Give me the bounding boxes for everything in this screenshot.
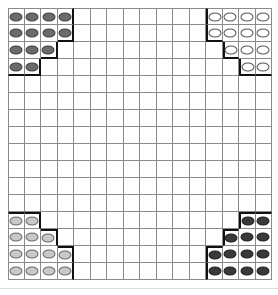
dark-piece[interactable] [10,12,23,21]
light-piece[interactable] [26,250,39,259]
board-cell[interactable] [140,263,157,280]
board-cell[interactable] [223,42,240,59]
board-cell[interactable] [173,246,190,263]
white-piece[interactable] [224,12,237,21]
board-cell[interactable] [223,93,240,110]
dark-piece[interactable] [10,46,23,55]
board-cell[interactable] [8,42,25,59]
board-cell[interactable] [91,212,108,229]
board-cell[interactable] [157,195,174,212]
board-cell[interactable] [41,263,58,280]
board-cell[interactable] [107,195,124,212]
board-cell[interactable] [190,263,207,280]
board-cell[interactable] [74,212,91,229]
board-cell[interactable] [223,25,240,42]
board-cell[interactable] [25,110,42,127]
board-cell[interactable] [8,161,25,178]
board-cell[interactable] [124,195,141,212]
board-cell[interactable] [58,25,75,42]
white-piece[interactable] [257,62,270,71]
dark-piece[interactable] [58,12,71,21]
board-cell[interactable] [256,263,273,280]
board-cell[interactable] [223,178,240,195]
board-cell[interactable] [223,161,240,178]
board-cell[interactable] [190,127,207,144]
board-cell[interactable] [58,93,75,110]
board-cell[interactable] [190,42,207,59]
black-piece[interactable] [240,233,253,242]
board-cell[interactable] [107,110,124,127]
board-cell[interactable] [256,144,273,161]
board-cell[interactable] [256,178,273,195]
board-cell[interactable] [41,127,58,144]
board-cell[interactable] [206,76,223,93]
board-cell[interactable] [41,25,58,42]
board-cell[interactable] [41,161,58,178]
board-cell[interactable] [107,59,124,76]
board-cell[interactable] [91,263,108,280]
black-piece[interactable] [224,267,237,276]
board-cell[interactable] [190,178,207,195]
white-piece[interactable] [240,46,253,55]
board-cell[interactable] [25,212,42,229]
board-cell[interactable] [91,8,108,25]
board-cell[interactable] [256,93,273,110]
board-cell[interactable] [8,246,25,263]
board-cell[interactable] [239,127,256,144]
light-piece[interactable] [10,233,23,242]
board-cell[interactable] [157,110,174,127]
board-cell[interactable] [256,127,273,144]
board-cell[interactable] [74,93,91,110]
board-cell[interactable] [25,42,42,59]
board-cell[interactable] [239,161,256,178]
board-cell[interactable] [256,8,273,25]
black-piece[interactable] [224,250,237,259]
board-cell[interactable] [124,178,141,195]
light-piece[interactable] [26,233,39,242]
board-cell[interactable] [8,229,25,246]
board-cell[interactable] [124,246,141,263]
board-cell[interactable] [124,25,141,42]
board-cell[interactable] [239,246,256,263]
board-cell[interactable] [107,161,124,178]
board-cell[interactable] [8,76,25,93]
white-piece[interactable] [240,12,253,21]
board-cell[interactable] [173,8,190,25]
board-cell[interactable] [190,76,207,93]
board-cell[interactable] [8,178,25,195]
board-cell[interactable] [74,195,91,212]
dark-piece[interactable] [25,62,38,71]
board-cell[interactable] [173,127,190,144]
dark-piece[interactable] [58,28,71,37]
board-cell[interactable] [25,59,42,76]
board-cell[interactable] [239,144,256,161]
light-piece[interactable] [10,250,23,259]
board-cell[interactable] [58,144,75,161]
light-piece[interactable] [42,267,55,276]
board-cell[interactable] [206,93,223,110]
white-piece[interactable] [224,29,237,38]
board-cell[interactable] [173,212,190,229]
black-piece[interactable] [257,250,270,259]
white-piece[interactable] [208,28,221,37]
board-cell[interactable] [41,76,58,93]
board-cell[interactable] [239,25,256,42]
board-cell[interactable] [25,161,42,178]
board-cell[interactable] [140,144,157,161]
board-cell[interactable] [25,8,42,25]
board-cell[interactable] [206,212,223,229]
board-cell[interactable] [140,42,157,59]
board-cell[interactable] [157,178,174,195]
board-cell[interactable] [140,76,157,93]
board-cell[interactable] [256,246,273,263]
board-cell[interactable] [206,195,223,212]
board-cell[interactable] [107,76,124,93]
white-piece[interactable] [257,29,270,38]
light-piece[interactable] [25,217,38,226]
board-cell[interactable] [140,195,157,212]
board-cell[interactable] [58,195,75,212]
board-cell[interactable] [223,144,240,161]
board-cell[interactable] [206,8,223,25]
board-cell[interactable] [256,212,273,229]
board-cell[interactable] [223,127,240,144]
